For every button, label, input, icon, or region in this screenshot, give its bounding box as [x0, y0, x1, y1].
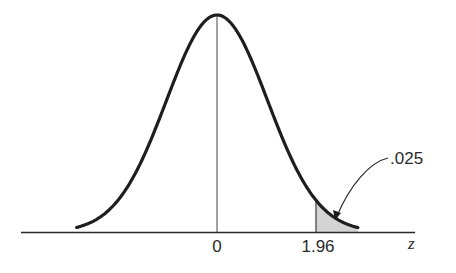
x-axis-label: z: [407, 234, 415, 253]
normal-distribution-chart: .025 0 1.96 z: [0, 0, 456, 273]
annotation-arrow-line: [337, 158, 388, 216]
tick-label-zero: 0: [212, 237, 221, 256]
tick-label-critical: 1.96: [301, 237, 334, 256]
tail-area-label: .025: [390, 149, 423, 168]
